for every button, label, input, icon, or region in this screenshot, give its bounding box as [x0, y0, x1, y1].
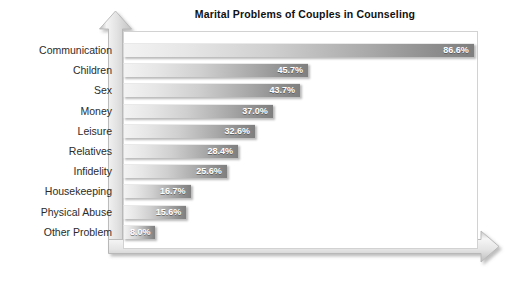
category-label: Leisure: [0, 124, 112, 138]
bar-value-label: 32.6%: [224, 124, 250, 138]
bar-value-label: 86.6%: [443, 43, 469, 57]
bar-value-label: 25.6%: [196, 164, 222, 178]
bar-value-label: 8.0%: [130, 225, 151, 239]
bar-item: 15.6%: [123, 205, 186, 219]
category-label: Physical Abuse: [0, 205, 112, 219]
bar-item: 32.6%: [123, 124, 255, 138]
bar-item: 8.0%: [123, 225, 155, 239]
bar-value-label: 45.7%: [278, 63, 304, 77]
category-label: Communication: [0, 43, 112, 57]
bar-item: 86.6%: [123, 43, 474, 57]
bar-chart: Marital Problems of Couples in Counselin…: [0, 0, 507, 281]
category-label: Sex: [0, 83, 112, 97]
bar-value-label: 37.0%: [242, 104, 268, 118]
bar-value-label: 28.4%: [207, 144, 233, 158]
bar-item: 16.7%: [123, 184, 191, 198]
bar-value-label: 15.6%: [156, 205, 182, 219]
bar-item: 37.0%: [123, 104, 273, 118]
bar-value-label: 16.7%: [160, 184, 186, 198]
bar-item: 43.7%: [123, 83, 300, 97]
bar: [123, 43, 474, 57]
category-label: Relatives: [0, 144, 112, 158]
bar-item: 45.7%: [123, 63, 308, 77]
category-label: Other Problem: [0, 225, 112, 239]
bar-item: 28.4%: [123, 144, 238, 158]
category-label: Infidelity: [0, 164, 112, 178]
category-label: Housekeeping: [0, 184, 112, 198]
category-axis: CommunicationChildrenSexMoneyLeisureRela…: [0, 31, 112, 249]
bars-layer: 86.6%45.7%43.7%37.0%32.6%28.4%25.6%16.7%…: [123, 31, 478, 249]
bar-value-label: 43.7%: [269, 83, 295, 97]
category-label: Children: [0, 63, 112, 77]
category-label: Money: [0, 104, 112, 118]
bar-item: 25.6%: [123, 164, 227, 178]
chart-title: Marital Problems of Couples in Counselin…: [130, 8, 480, 20]
